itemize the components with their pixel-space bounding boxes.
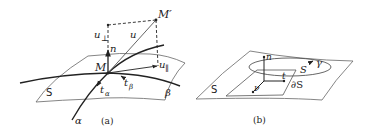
label-u-parallel-sub: ∥ bbox=[165, 64, 169, 73]
label-M-prime: M′ bbox=[157, 8, 172, 21]
label-gamma: γ bbox=[316, 57, 322, 68]
caption-a: (a) bbox=[101, 116, 113, 126]
curve-alpha bbox=[72, 45, 164, 120]
label-boundary-dS: ∂S bbox=[291, 79, 303, 90]
label-M: M bbox=[94, 61, 107, 74]
diagram-canvas: u ⊥ u M′ n M u ∥ t α t β β S α (a) n t ν… bbox=[0, 0, 374, 133]
label-u-perp-sub: ⊥ bbox=[101, 34, 109, 43]
panel-a: u ⊥ u M′ n M u ∥ t α t β β S α (a) bbox=[20, 8, 185, 126]
label-n: n bbox=[110, 43, 116, 54]
orientation-arrow bbox=[309, 61, 313, 63]
label-u-perp: u bbox=[94, 29, 100, 40]
dashed-top bbox=[108, 20, 156, 25]
label-alpha: α bbox=[75, 115, 82, 126]
label-region-S: S bbox=[300, 64, 307, 75]
label-t-beta-sub: β bbox=[128, 83, 133, 91]
panel-b: n t ν S γ ∂S S (b) bbox=[196, 51, 353, 125]
label-t-alpha-sub: α bbox=[105, 90, 110, 98]
dashed-right bbox=[156, 20, 158, 66]
label-n-b: n bbox=[266, 52, 272, 62]
label-t: t bbox=[282, 71, 286, 81]
label-surface-S-b: S bbox=[211, 84, 217, 95]
label-beta: β bbox=[164, 87, 171, 98]
label-surface-S-a: S bbox=[46, 87, 52, 98]
label-u: u bbox=[130, 29, 136, 40]
label-nu: ν bbox=[254, 83, 260, 93]
caption-b: (b) bbox=[253, 115, 266, 125]
